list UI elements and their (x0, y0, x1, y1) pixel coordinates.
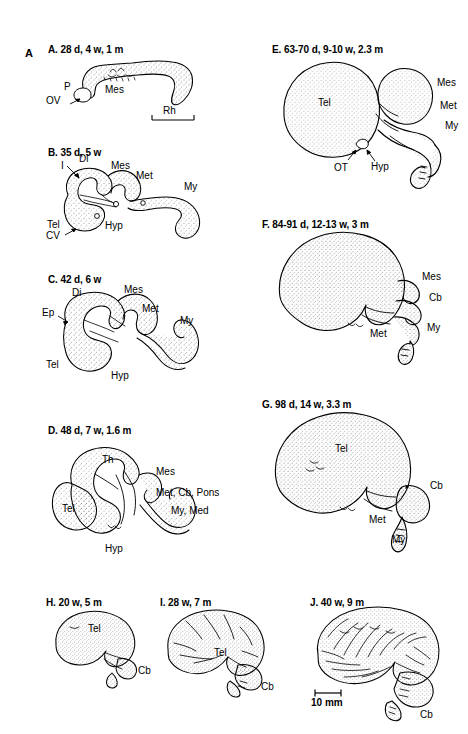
panel-i: I. 28 w, 7 m (160, 597, 300, 707)
panel-c: C. 42 d, 6 w (48, 274, 238, 389)
panel-d-label-tel: Tel (62, 503, 75, 514)
panel-d-label-mes: Mes (156, 466, 175, 477)
panel-j-label-cb: Cb (420, 709, 433, 720)
panel-e-drawing (272, 44, 462, 194)
panel-f-label-my: My (427, 322, 440, 333)
panel-d: D. 48 d, 7 w, 1.6 m (48, 425, 248, 565)
panel-e-label-tel: Tel (318, 97, 331, 108)
panel-a-label-p: P (64, 81, 71, 92)
panel-c-label-tel: Tel (46, 359, 59, 370)
panel-a-label-ov: OV (46, 95, 60, 106)
panel-d-label-th: Th (102, 454, 114, 465)
panel-i-label-tel: Tel (214, 647, 227, 658)
panel-b: B. 35 d, 5 w (48, 147, 238, 247)
panel-i-label-cb: Cb (261, 681, 274, 692)
panel-j: J. 40 w, 9 m (310, 597, 465, 727)
panel-c-label-di: Di (72, 287, 81, 298)
panel-e-label-mes: Mes (437, 77, 456, 88)
panel-g-label-tel: Tel (335, 443, 348, 454)
panel-h-label-tel: Tel (88, 623, 101, 634)
panel-b-label-i: I (61, 160, 64, 171)
panel-c-label-met: Met (142, 303, 159, 314)
scale-bar-label: 10 mm (311, 697, 343, 708)
panel-d-label-my-med: My, Med (171, 505, 209, 516)
panel-g-label-cb: Cb (430, 480, 443, 491)
panel-f-label-cb: Cb (429, 292, 442, 303)
panel-c-label-my: My (180, 315, 193, 326)
panel-d-label-hyp: Hyp (105, 543, 123, 554)
panel-c-label-hyp: Hyp (111, 370, 129, 381)
panel-e: E. 63-70 d, 9-10 w, 2.3 m (272, 44, 462, 194)
panel-c-label-ep: Ep (42, 307, 54, 318)
panel-b-label-mes: Mes (111, 160, 130, 171)
panel-g-label-met: Met (369, 514, 386, 525)
panel-f-label-mes: Mes (422, 271, 441, 282)
panel-b-label-met: Met (136, 170, 153, 181)
panel-a-label-mes: Mes (105, 84, 124, 95)
panel-b-label-cv: CV (46, 230, 60, 241)
panel-e-label-ot: OT (334, 162, 348, 173)
panel-c-label-mes: Mes (124, 284, 143, 295)
panel-g-label-my: My (392, 534, 405, 545)
figure-letter: A (25, 47, 33, 59)
panel-d-label-met-cb-pons: Met, Cb, Pons (156, 487, 219, 498)
panel-h-drawing (46, 597, 176, 697)
brain-development-figure: A A. 28 d, 4 w, 1 m (0, 0, 468, 734)
panel-b-label-di: Di (79, 153, 88, 164)
panel-a-drawing (48, 44, 228, 129)
panel-g: G. 98 d, 14 w, 3.3 m (262, 399, 462, 559)
panel-e-label-met: Met (440, 100, 457, 111)
panel-f: F. 84-91 d, 12-13 w, 3 m (262, 219, 462, 369)
panel-b-label-tel: Tel (47, 219, 60, 230)
panel-h: H. 20 w, 5 m Tel Cb (46, 597, 176, 697)
panel-e-label-my: My (445, 120, 458, 131)
panel-e-label-hyp: Hyp (371, 161, 389, 172)
panel-b-label-my: My (184, 181, 197, 192)
panel-a: A. 28 d, 4 w, 1 m (48, 44, 228, 129)
panel-h-label-cb: Cb (138, 665, 151, 676)
panel-g-drawing (262, 399, 462, 559)
panel-f-label-met: Met (370, 328, 387, 339)
panel-a-label-rh: Rh (163, 105, 176, 116)
panel-i-drawing (160, 597, 300, 707)
panel-b-label-hyp: Hyp (105, 220, 123, 231)
panel-b-drawing (48, 147, 238, 247)
